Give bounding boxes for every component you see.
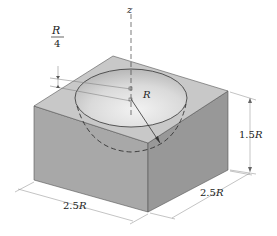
depth-ext-front — [150, 213, 175, 219]
r4-arrowhead-lower — [56, 85, 60, 88]
height-arrow-bottom — [248, 167, 252, 172]
depth-label: 2.5R — [200, 187, 224, 198]
width-label: 2.5R — [63, 200, 87, 211]
r4-label-denominator: 4 — [54, 38, 60, 49]
width-ext-left — [15, 182, 34, 192]
width-ext-right — [130, 214, 148, 224]
r4-label-numerator: R — [51, 24, 60, 37]
z-axis-label: z — [126, 4, 133, 15]
radius-label: R — [142, 89, 151, 100]
height-ext-top — [230, 92, 256, 100]
r4-arrowhead — [56, 76, 60, 79]
height-label: 1.5R — [239, 129, 263, 140]
block-diagram: z R 4 R 1.5R 2.5R 2.5R — [0, 0, 277, 236]
